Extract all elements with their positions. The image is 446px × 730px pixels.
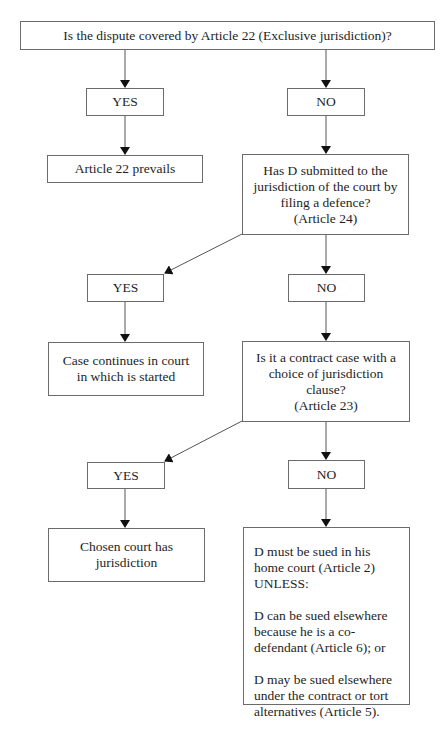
result-home-court-rule: D must be sued in his home court (Articl… xyxy=(243,527,410,705)
yes-article-23: YES xyxy=(87,462,165,489)
yes-article-24: YES xyxy=(87,274,164,302)
question-article-24: Has D submitted to the jurisdiction of t… xyxy=(242,154,409,235)
yes-article-22: YES xyxy=(86,88,164,116)
result-case-continues: Case continues in court in which is star… xyxy=(48,342,204,396)
no-article-24: NO xyxy=(288,274,365,302)
result-article-22-prevails: Article 22 prevails xyxy=(47,155,203,183)
no-article-22: NO xyxy=(287,88,365,116)
final-para-1: D must be sued in his home court (Articl… xyxy=(254,544,399,592)
no-article-23: NO xyxy=(288,460,365,489)
question-article-23: Is it a contract case with a choice of j… xyxy=(242,341,410,422)
arrow-q3-yes3 xyxy=(165,421,242,461)
final-para-2: D can be sued elsewhere because he is a … xyxy=(254,608,399,656)
final-para-3: D may be sued elsewhere under the contra… xyxy=(254,672,399,720)
result-chosen-court: Chosen court has jurisdiction xyxy=(48,528,205,582)
question-article-22: Is the dispute covered by Article 22 (Ex… xyxy=(20,21,435,50)
arrow-q2-yes2 xyxy=(165,234,242,273)
